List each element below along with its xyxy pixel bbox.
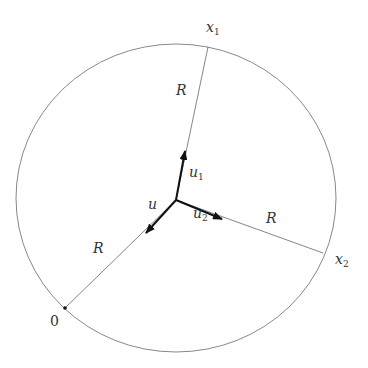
label-zero-text: 0 (50, 313, 59, 329)
label-u: u (148, 197, 157, 211)
label-u1: u1 (189, 165, 204, 182)
label-u2: u2 (193, 206, 208, 223)
label-u2-sub: 2 (202, 213, 208, 223)
label-radius-zero: R (93, 241, 104, 255)
label-radius-zero-text: R (93, 240, 104, 256)
label-radius-x2: R (266, 211, 277, 225)
label-x2-base: x (335, 251, 343, 267)
label-radius-x2-text: R (266, 210, 277, 226)
label-u-text: u (148, 196, 157, 212)
label-zero: 0 (50, 314, 59, 328)
label-x1-sub: 1 (214, 27, 220, 37)
label-x1-base: x (206, 19, 214, 35)
label-u1-base: u (189, 164, 198, 180)
label-x2: x2 (335, 252, 349, 269)
label-x2-sub: 2 (343, 259, 349, 269)
label-u2-base: u (193, 205, 202, 221)
radius-to-zero (65, 200, 176, 308)
vector-u1-arrow (176, 151, 185, 200)
label-radius-x1-text: R (176, 82, 187, 98)
label-u1-sub: 1 (198, 172, 204, 182)
label-x1: x1 (206, 20, 220, 37)
label-radius-x1: R (176, 83, 187, 97)
point-zero-dot (63, 306, 67, 310)
